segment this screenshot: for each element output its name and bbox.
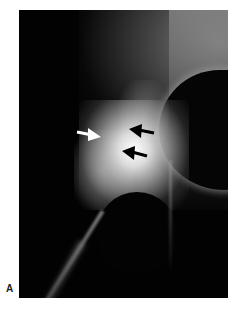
pelvic-bone-right (169, 10, 228, 210)
mass-left-lobe (74, 130, 134, 210)
femoral-head-shadow (97, 192, 177, 272)
radiograph-image (19, 10, 228, 298)
panel-label: A (6, 283, 13, 294)
femoral-cortex-line (37, 210, 104, 298)
black-arrow-upper-icon (129, 124, 155, 140)
white-arrow-icon (76, 127, 102, 141)
femoral-shaft-line (34, 240, 86, 298)
obturator-foramen (159, 70, 228, 190)
black-arrow-lower-icon (122, 146, 148, 162)
bone-edge-line (169, 160, 172, 270)
